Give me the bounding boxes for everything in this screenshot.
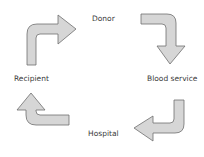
bent-arrow-left-icon	[134, 100, 184, 141]
blood-donation-cycle-diagram: Donor Blood service Hospital Recipient	[0, 0, 204, 157]
node-label-donor: Donor	[92, 15, 115, 23]
bent-arrow-right-icon	[27, 15, 76, 65]
node-label-hospital: Hospital	[88, 130, 119, 138]
bent-arrow-up-icon	[17, 93, 69, 125]
node-label-blood-service: Blood service	[147, 75, 197, 83]
bent-arrow-down-icon	[141, 14, 185, 64]
node-label-recipient: Recipient	[14, 75, 49, 83]
